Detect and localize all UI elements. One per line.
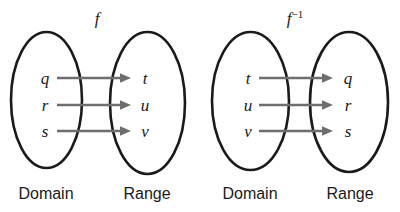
- range-element-v: v: [141, 122, 149, 141]
- figure-canvas: f q r s t u v: [0, 0, 400, 212]
- map-label-f-inverse: f−1: [287, 8, 303, 28]
- range-element-q: q: [344, 69, 353, 88]
- domain-element-s: s: [42, 122, 49, 141]
- diagram-inverse-f: f−1 t u v q r: [212, 8, 388, 202]
- domain-element-u: u: [244, 96, 253, 115]
- diagram-function-f: f q r s t u v: [11, 9, 185, 202]
- mapping-diagram-figure: f q r s t u v: [0, 0, 400, 212]
- domain-caption-f: Domain: [18, 185, 73, 202]
- map-label-f-inverse-exponent: −1: [292, 8, 304, 20]
- range-element-s: s: [345, 122, 352, 141]
- range-element-r: r: [345, 96, 352, 115]
- range-caption-f-inverse: Range: [326, 185, 373, 202]
- domain-element-v: v: [244, 122, 252, 141]
- domain-caption-f-inverse: Domain: [222, 185, 277, 202]
- range-element-u: u: [141, 96, 150, 115]
- domain-element-q: q: [41, 69, 50, 88]
- range-caption-f: Range: [123, 185, 170, 202]
- domain-element-r: r: [42, 96, 49, 115]
- map-label-f: f: [95, 9, 102, 28]
